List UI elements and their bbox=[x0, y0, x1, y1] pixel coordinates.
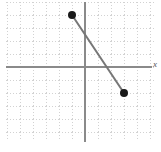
segment-endpoint-2 bbox=[120, 89, 128, 97]
x-axis-label: x bbox=[153, 60, 157, 69]
coordinate-plane-canvas bbox=[0, 0, 161, 152]
grid-background bbox=[6, 2, 155, 141]
coordinate-plane-figure: x bbox=[0, 0, 161, 152]
segment-endpoint-1 bbox=[68, 11, 76, 19]
